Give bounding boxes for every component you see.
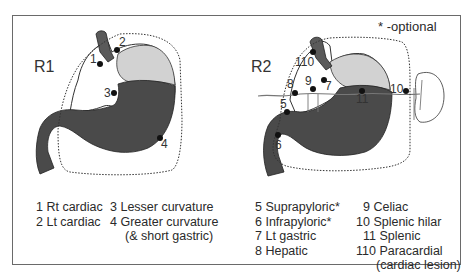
svg-text:7: 7	[325, 79, 332, 93]
svg-text:5: 5	[280, 97, 287, 111]
legend-item: 5 Suprapyloric*	[255, 200, 340, 215]
svg-text:10: 10	[390, 82, 404, 96]
legend-item: 1 Rt cardiac	[36, 200, 103, 215]
svg-text:9: 9	[305, 74, 312, 88]
legend-item: 4 Greater curvature	[110, 215, 218, 230]
svg-text:4: 4	[161, 137, 168, 151]
legend-item: 10 Splenic hilar	[356, 215, 461, 230]
legend-r2-col2: 9 Celiac 10 Splenic hilar 11 Splenic 110…	[356, 200, 461, 273]
panel-label-r1: R1	[34, 58, 54, 76]
svg-text:2: 2	[119, 35, 126, 49]
legend-item: (cardiac lesion)	[356, 258, 461, 273]
legend-r1-col2: 3 Lesser curvature 4 Greater curvature (…	[110, 200, 218, 244]
legend-r1-col1: 1 Rt cardiac 2 Lt cardiac	[36, 200, 103, 229]
legend-r2-col1: 5 Suprapyloric* 6 Infrapyloric* 7 Lt gas…	[255, 200, 340, 258]
legend-item: 2 Lt cardiac	[36, 215, 103, 230]
svg-text:3: 3	[104, 86, 111, 100]
legend-item: (& short gastric)	[110, 229, 218, 244]
legend-item: 6 Infrapyloric*	[255, 215, 340, 230]
svg-text:11: 11	[356, 92, 369, 106]
panel-label-r2: R2	[251, 58, 271, 76]
legend-item: 7 Lt gastric	[255, 229, 340, 244]
r1-stomach	[36, 31, 182, 175]
svg-text:8: 8	[287, 77, 294, 91]
legend-item: 110 Paracardial	[356, 244, 461, 259]
svg-text:110: 110	[295, 55, 314, 69]
legend-item: 3 Lesser curvature	[110, 200, 218, 215]
legend-item: 11 Splenic	[356, 229, 461, 244]
legend-item: 8 Hepatic	[255, 244, 340, 259]
svg-text:1: 1	[90, 52, 97, 66]
optional-note: * -optional	[378, 19, 437, 34]
svg-text:6: 6	[275, 138, 282, 152]
legend-item: 9 Celiac	[356, 200, 461, 215]
